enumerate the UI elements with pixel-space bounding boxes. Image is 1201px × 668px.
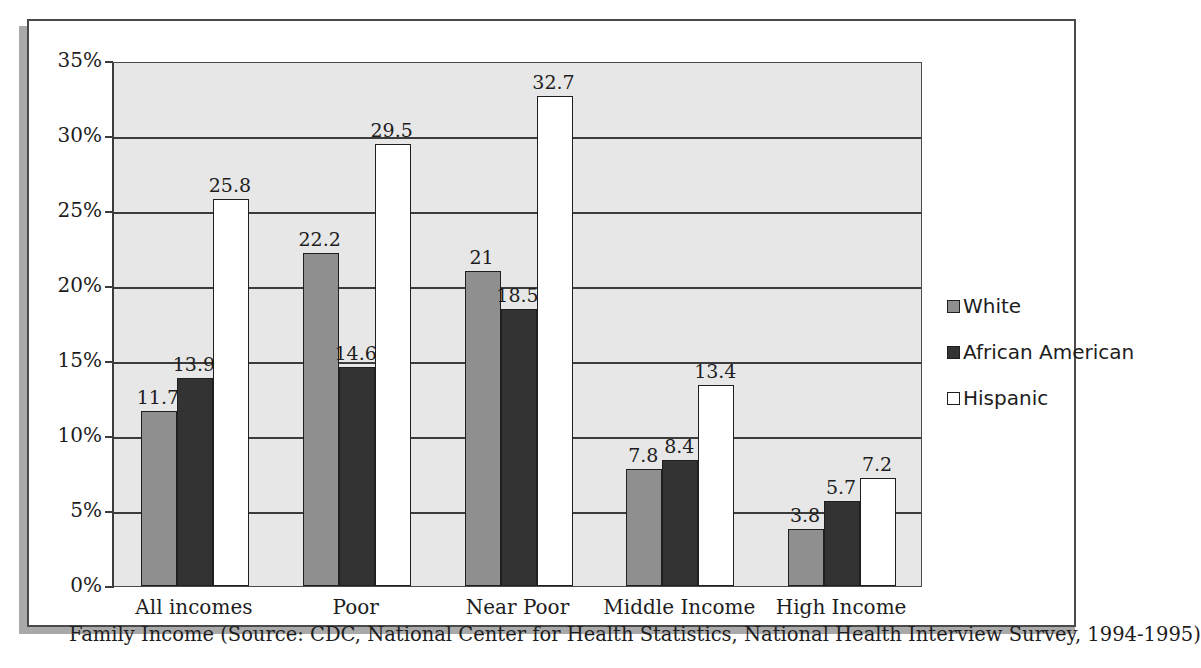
x-axis-label: Near Poor bbox=[437, 595, 599, 619]
y-axis-tick bbox=[105, 211, 113, 213]
bar bbox=[626, 469, 662, 586]
y-axis-line bbox=[112, 62, 114, 588]
chart-legend: WhiteAfrican AmericanHispanic bbox=[947, 283, 1134, 421]
bar-value-label: 25.8 bbox=[200, 174, 260, 196]
bar-value-label: 3.8 bbox=[775, 504, 835, 526]
y-axis-tick bbox=[105, 511, 113, 513]
bar-value-label: 29.5 bbox=[362, 119, 422, 141]
bar bbox=[465, 271, 501, 586]
gridline bbox=[114, 137, 921, 139]
y-axis-tick bbox=[105, 61, 113, 63]
bar bbox=[177, 378, 213, 587]
x-axis-label: Middle Income bbox=[598, 595, 760, 619]
legend-label: Hispanic bbox=[963, 386, 1048, 410]
y-axis-label: 0% bbox=[39, 573, 102, 597]
bar-value-label: 5.7 bbox=[811, 476, 871, 498]
bar bbox=[662, 460, 698, 586]
bar-value-label: 13.9 bbox=[164, 353, 224, 375]
legend-item: White bbox=[947, 283, 1134, 329]
y-axis-label: 15% bbox=[39, 348, 102, 372]
bar-value-label: 14.6 bbox=[326, 342, 386, 364]
bar-value-label: 7.2 bbox=[847, 453, 907, 475]
legend-swatch-icon bbox=[947, 300, 960, 313]
y-axis-label: 5% bbox=[39, 498, 102, 522]
y-axis-tick bbox=[105, 361, 113, 363]
legend-label: African American bbox=[963, 340, 1134, 364]
bar-value-label: 22.2 bbox=[290, 228, 350, 250]
bar-value-label: 8.4 bbox=[649, 435, 709, 457]
y-axis-label: 25% bbox=[39, 198, 102, 222]
x-axis-label: High Income bbox=[760, 595, 922, 619]
legend-item: African American bbox=[947, 329, 1134, 375]
bar bbox=[375, 144, 411, 587]
y-axis-tick bbox=[105, 286, 113, 288]
x-axis-label: Poor bbox=[275, 595, 437, 619]
y-axis-tick bbox=[105, 436, 113, 438]
legend-swatch-icon bbox=[947, 346, 960, 359]
bar bbox=[501, 309, 537, 587]
y-axis-tick bbox=[105, 586, 113, 588]
y-axis-label: 20% bbox=[39, 273, 102, 297]
bar bbox=[303, 253, 339, 586]
bar-value-label: 11.7 bbox=[128, 386, 188, 408]
y-axis-label: 10% bbox=[39, 423, 102, 447]
bar-value-label: 13.4 bbox=[685, 360, 745, 382]
bar-value-label: 21 bbox=[452, 246, 512, 268]
bar bbox=[141, 411, 177, 587]
legend-swatch-icon bbox=[947, 392, 960, 405]
bar bbox=[788, 529, 824, 586]
bar bbox=[213, 199, 249, 586]
legend-item: Hispanic bbox=[947, 375, 1134, 421]
bar bbox=[339, 367, 375, 586]
legend-label: White bbox=[963, 294, 1021, 318]
bar bbox=[698, 385, 734, 586]
y-axis-label: 30% bbox=[39, 123, 102, 147]
figure-frame: 0%5%10%15%20%25%30%35% 11.713.925.822.21… bbox=[27, 19, 1076, 627]
bar bbox=[537, 96, 573, 587]
y-axis-label: 35% bbox=[39, 48, 102, 72]
chart-caption: Family Income (Source: CDC, National Cen… bbox=[69, 623, 969, 646]
bar-value-label: 32.7 bbox=[524, 71, 584, 93]
bar-value-label: 18.5 bbox=[488, 284, 548, 306]
y-axis-tick bbox=[105, 136, 113, 138]
x-axis-label: All incomes bbox=[113, 595, 275, 619]
